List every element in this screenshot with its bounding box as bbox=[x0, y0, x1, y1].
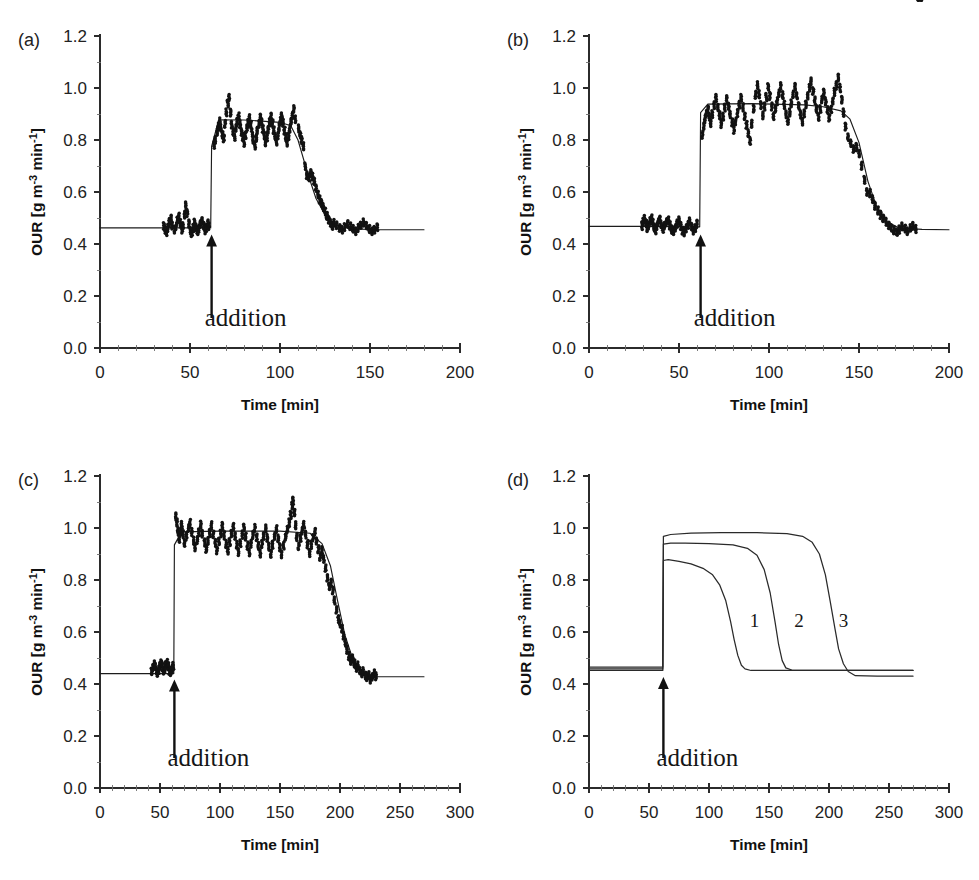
data-point bbox=[758, 96, 762, 100]
series-points-measured-OUR bbox=[150, 495, 379, 684]
x-tick-label: 150 bbox=[845, 363, 873, 382]
data-point bbox=[215, 552, 219, 556]
curve-number-label: 3 bbox=[839, 610, 849, 631]
data-point bbox=[763, 108, 767, 112]
y-tick-label: 1.2 bbox=[552, 27, 576, 46]
data-point bbox=[641, 228, 645, 232]
data-point bbox=[906, 233, 910, 237]
data-point bbox=[260, 546, 264, 550]
data-point bbox=[310, 547, 314, 551]
y-axis-title-sup-1: -3 bbox=[516, 175, 528, 185]
data-point bbox=[873, 207, 877, 211]
x-tick-label: 100 bbox=[206, 803, 234, 822]
y-tick-label: 0.8 bbox=[552, 571, 576, 590]
data-point bbox=[911, 228, 915, 232]
x-tick-label: 150 bbox=[356, 363, 384, 382]
y-axis-title-base: OUR [g m bbox=[28, 185, 45, 256]
data-point bbox=[244, 137, 248, 141]
x-tick-label: 0 bbox=[95, 803, 104, 822]
data-point bbox=[223, 125, 227, 129]
panel-c-chart: 0.00.20.40.60.81.01.2050100150200250300T… bbox=[0, 440, 490, 880]
panel-a-chart: 0.00.20.40.60.81.01.2050100150200Time [m… bbox=[0, 0, 490, 440]
y-tick-label: 1.0 bbox=[63, 79, 87, 98]
y-tick-label: 1.2 bbox=[63, 27, 87, 46]
data-point bbox=[273, 538, 277, 542]
data-point bbox=[723, 109, 727, 113]
data-point bbox=[719, 126, 723, 130]
data-point bbox=[851, 151, 855, 155]
data-point bbox=[323, 570, 327, 574]
data-point bbox=[311, 539, 315, 543]
data-point bbox=[662, 227, 666, 231]
data-point bbox=[722, 118, 726, 122]
y-tick-label: 0.8 bbox=[552, 131, 576, 150]
data-point bbox=[675, 226, 679, 230]
data-point bbox=[647, 227, 651, 231]
y-axis-title-end: ] bbox=[517, 568, 534, 573]
data-point bbox=[827, 119, 831, 123]
data-point bbox=[300, 532, 304, 536]
y-tick-label: 0.6 bbox=[552, 183, 576, 202]
data-point bbox=[257, 125, 261, 129]
data-point bbox=[215, 133, 219, 137]
data-point bbox=[237, 554, 241, 558]
data-point bbox=[738, 106, 742, 110]
data-point bbox=[303, 526, 307, 530]
data-point bbox=[251, 537, 255, 541]
data-point bbox=[811, 92, 815, 96]
data-point bbox=[302, 148, 306, 152]
data-point bbox=[803, 115, 807, 119]
data-point bbox=[269, 555, 273, 559]
panel-d: 0.00.20.40.60.81.01.2050100150200250300T… bbox=[489, 440, 979, 880]
data-point bbox=[654, 232, 658, 236]
y-tick-label: 0.4 bbox=[63, 675, 87, 694]
panel-label: (c) bbox=[18, 470, 39, 490]
x-tick-label: 50 bbox=[670, 363, 689, 382]
x-tick-label: 250 bbox=[875, 803, 903, 822]
x-tick-label: 300 bbox=[446, 803, 474, 822]
x-tick-label: 50 bbox=[181, 363, 200, 382]
data-point bbox=[283, 539, 287, 543]
data-point bbox=[334, 611, 338, 615]
arrow-head bbox=[206, 234, 217, 246]
data-point bbox=[772, 118, 776, 122]
data-point bbox=[228, 544, 232, 548]
y-axis-title-sup-2: -1 bbox=[27, 133, 39, 143]
data-point bbox=[840, 101, 844, 105]
y-axis-title-sup-2: -1 bbox=[516, 573, 528, 583]
data-point bbox=[186, 530, 190, 534]
y-axis-title-mid: min bbox=[28, 583, 45, 615]
series-line-3 bbox=[589, 533, 913, 677]
data-point bbox=[254, 140, 258, 144]
panel-c: 0.00.20.40.60.81.01.2050100150200250300T… bbox=[0, 440, 490, 880]
y-tick-label: 1.2 bbox=[63, 467, 87, 486]
data-point bbox=[299, 539, 303, 543]
data-point bbox=[806, 97, 810, 101]
data-point bbox=[244, 130, 248, 134]
curve-number-label: 1 bbox=[750, 610, 760, 631]
y-tick-label: 0.8 bbox=[63, 131, 87, 150]
data-point bbox=[759, 107, 763, 111]
data-point bbox=[289, 123, 293, 127]
data-point bbox=[700, 137, 704, 141]
data-point bbox=[761, 117, 765, 121]
y-tick-label: 0.2 bbox=[63, 287, 87, 306]
data-point bbox=[709, 125, 713, 129]
x-tick-label: 0 bbox=[584, 363, 593, 382]
data-point bbox=[271, 546, 275, 550]
data-point bbox=[280, 556, 284, 560]
arrow-head bbox=[658, 677, 669, 689]
data-point bbox=[217, 543, 221, 547]
x-tick-label: 50 bbox=[640, 803, 659, 822]
y-tick-label: 0.0 bbox=[63, 339, 87, 358]
data-point bbox=[150, 673, 154, 677]
curve-number-label: 2 bbox=[794, 610, 804, 631]
y-axis-title-mid: min bbox=[517, 143, 534, 175]
y-tick-label: 0.6 bbox=[552, 623, 576, 642]
data-point bbox=[181, 227, 185, 231]
data-point bbox=[259, 555, 263, 559]
data-point bbox=[292, 503, 296, 507]
y-tick-label: 0.0 bbox=[63, 779, 87, 798]
panel-b: 0.00.20.40.60.81.01.2050100150200Time [m… bbox=[489, 0, 979, 440]
data-point bbox=[702, 127, 706, 131]
